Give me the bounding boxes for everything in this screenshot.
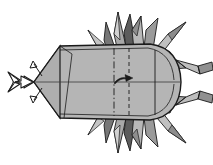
diagram-canvas: Origami insect step diagram (0, 0, 213, 165)
origami-diagram: Origami insect step diagram (0, 0, 213, 165)
